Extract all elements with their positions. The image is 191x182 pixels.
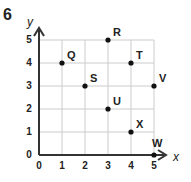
point-marker-icon: [151, 83, 156, 88]
point-label: V: [159, 72, 167, 84]
point-label: W: [152, 137, 163, 149]
y-tick-label: 4: [26, 57, 32, 68]
point-marker-icon: [128, 129, 133, 134]
x-tick-label: 0: [36, 160, 42, 171]
x-tick-label: 2: [82, 160, 88, 171]
x-tick-label: 5: [151, 160, 157, 171]
y-tick-label: 5: [26, 34, 32, 45]
x-tick-label: 4: [128, 160, 134, 171]
y-axis-label: y: [26, 15, 34, 29]
x-axis-label: x: [172, 150, 180, 164]
point-label: S: [90, 72, 97, 84]
x-tick-label: 1: [59, 160, 65, 171]
data-points: QRSTUVWX: [59, 26, 167, 158]
point-marker-icon: [59, 60, 64, 65]
point-label: U: [113, 95, 121, 107]
y-tick-label: 2: [26, 103, 32, 114]
point-label: X: [136, 118, 144, 130]
point-label: R: [113, 26, 121, 38]
point-marker-icon: [82, 83, 87, 88]
point-marker-icon: [128, 60, 133, 65]
y-tick-label: 0: [26, 149, 32, 160]
x-tick-label: 3: [105, 160, 111, 171]
point-label: T: [136, 49, 143, 61]
point-marker-icon: [105, 106, 110, 111]
coordinate-grid-chart: yx 012345012345 QRSTUVWX: [0, 0, 191, 182]
y-tick-label: 1: [26, 126, 32, 137]
point-label: Q: [67, 49, 76, 61]
point-marker-icon: [151, 152, 156, 157]
point-marker-icon: [105, 37, 110, 42]
y-tick-label: 3: [26, 80, 32, 91]
